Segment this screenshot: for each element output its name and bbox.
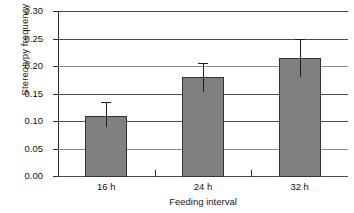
gridline	[58, 11, 348, 12]
x-axis-tick-label: 24 h	[155, 181, 252, 192]
error-bar-cap-upper	[295, 39, 305, 40]
y-axis-tick-label: 0.10	[0, 116, 52, 126]
y-axis-tick-label: 0.20	[0, 61, 52, 71]
plot-area	[58, 11, 348, 176]
x-axis-tick-mark	[251, 170, 252, 177]
y-axis-tick-mark	[53, 121, 58, 122]
y-axis-tick-label: 0.05	[0, 144, 52, 154]
y-axis-tick-label: 0.00	[0, 171, 52, 181]
error-bar-cap-upper	[101, 102, 111, 103]
y-axis-tick-mark	[53, 149, 58, 150]
x-axis-tick-mark	[155, 170, 156, 177]
y-axis-tick-mark	[53, 94, 58, 95]
y-axis-tick-mark	[53, 39, 58, 40]
y-axis-tick-labels: 0.300.250.200.150.100.050.00	[0, 0, 52, 213]
x-axis-tick-label: 16 h	[58, 181, 155, 192]
error-bar-line	[300, 39, 301, 78]
y-axis-tick-label: 0.25	[0, 34, 52, 44]
error-bar-line	[203, 63, 204, 92]
error-bar-cap-upper	[198, 63, 208, 64]
y-axis-tick-label: 0.30	[0, 6, 52, 16]
y-axis-tick-mark	[53, 11, 58, 12]
x-axis-tick-label: 32 h	[251, 181, 348, 192]
y-axis-tick-mark	[53, 176, 58, 177]
bar-chart-figure: Stereotypy frequency 0.300.250.200.150.1…	[0, 0, 354, 213]
y-axis-tick-mark	[53, 66, 58, 67]
y-axis-tick-label: 0.15	[0, 89, 52, 99]
error-bar-line	[106, 102, 107, 127]
x-axis-title: Feeding interval	[58, 196, 348, 207]
